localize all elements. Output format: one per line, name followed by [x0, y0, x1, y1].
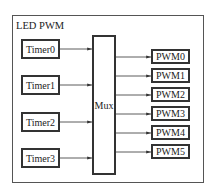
connection-arrows	[0, 0, 215, 194]
